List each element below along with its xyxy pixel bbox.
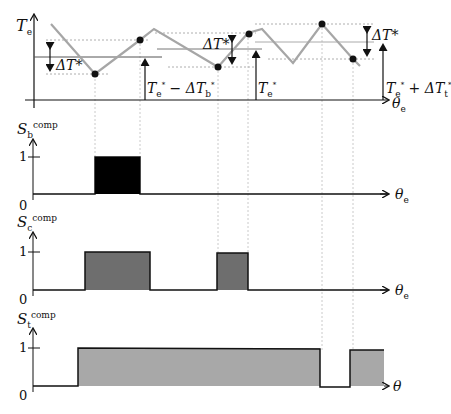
st-y-label: Stcomp	[17, 312, 56, 327]
sb-pulse	[95, 157, 140, 194]
sc-y-label: Sccomp	[17, 215, 57, 230]
top-y-label: Te	[16, 18, 32, 34]
sc-tick-0: 0	[19, 293, 27, 306]
sb-tick-0: 0	[19, 199, 27, 212]
st-plot	[28, 329, 388, 392]
delta-label-left: ΔT*	[56, 58, 82, 72]
level-b-label: Te* − ΔTb*	[147, 81, 215, 95]
delta-label-mid: ΔT*	[203, 37, 229, 51]
st-tick-1: 1	[19, 341, 27, 354]
sc-plot	[28, 233, 388, 296]
sb-plot	[28, 140, 388, 200]
sc-x-label: θe	[395, 283, 409, 297]
sb-y-label: Sbcomp	[17, 122, 58, 137]
sc-tick-1: 1	[19, 245, 27, 258]
sb-x-label: θe	[395, 187, 409, 201]
st-tick-0: 0	[19, 389, 27, 402]
delta-label-right: ΔT*	[372, 28, 398, 42]
level-t-label: Te* + ΔTt*	[386, 81, 451, 95]
st-x-label: θ	[393, 379, 401, 393]
level-e-label: Te*	[258, 81, 276, 95]
sb-tick-1: 1	[19, 150, 27, 163]
